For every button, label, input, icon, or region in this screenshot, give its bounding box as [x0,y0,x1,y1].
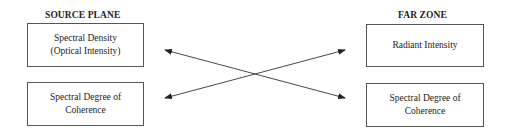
arrows-layer [0,0,507,134]
